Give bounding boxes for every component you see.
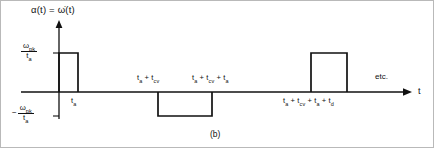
x-axis-name: t (418, 87, 421, 96)
negative-level-numerator: ωpk (18, 104, 34, 112)
y-axis-positive-level-label: ωpk ta (21, 42, 37, 60)
etc-annotation: etc. (375, 73, 388, 81)
minus-sign: − (12, 109, 17, 118)
x-tick-label-ta: ta (71, 97, 76, 105)
positive-level-numerator: ωpk (21, 42, 37, 50)
figure-caption: (b) (210, 130, 220, 139)
waveform-trace (59, 53, 347, 116)
negative-level-denominator: ta (18, 114, 34, 122)
y-level-ticks (53, 53, 59, 116)
x-axis (21, 88, 412, 95)
plot-title: α(t) = ω̇(t) (31, 5, 75, 15)
x-tick-label-ta-plus-tcv: ta + tcv (137, 74, 159, 82)
positive-level-denominator: ta (21, 52, 37, 60)
negative-level-signed-fraction: − ωpk ta (12, 104, 34, 122)
x-tick-label-ta-plus-tcv-plus-ta: ta + tcv + ta (192, 74, 229, 82)
y-axis-negative-level-label: − ωpk ta (12, 104, 34, 122)
negative-level-fraction: ωpk ta (18, 104, 34, 122)
positive-level-fraction: ωpk ta (21, 42, 37, 60)
x-tick-label-ta-plus-tcv-plus-ta-plus-td: ta + tcv + ta + td (283, 97, 334, 105)
figure-panel: α(t) = ω̇(t) ωpk ta − ωpk ta ta ta + tcv… (0, 0, 434, 148)
